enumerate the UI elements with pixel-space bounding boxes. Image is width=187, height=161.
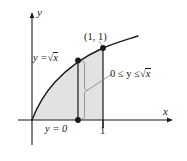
inequality-radical-group: √x bbox=[140, 68, 151, 80]
lower-bound-label: y = 0 bbox=[45, 124, 67, 135]
inequality-annotation: 0 ≤ y ≤√x bbox=[110, 68, 151, 80]
point-label-1-1: (1, 1) bbox=[84, 32, 107, 43]
x-axis-tick-label-1: 1 bbox=[100, 126, 105, 137]
x-axis-label: x bbox=[163, 106, 168, 117]
curve-equation-prefix: y = bbox=[33, 52, 47, 63]
figure-container: y x y =√x (1, 1) y = 0 1 0 ≤ y ≤√x bbox=[0, 0, 187, 161]
inequality-radicand: x bbox=[145, 68, 151, 80]
point-strip-bottom-marker bbox=[75, 117, 81, 123]
point-1-1-marker bbox=[100, 45, 106, 51]
radical-group: √x bbox=[47, 52, 58, 64]
y-axis-label: y bbox=[37, 7, 42, 18]
point-strip-top-marker bbox=[75, 58, 81, 64]
figure-graphic bbox=[0, 0, 187, 161]
radicand: x bbox=[53, 52, 59, 64]
curve-equation-label: y =√x bbox=[33, 52, 58, 64]
inequality-prefix: 0 ≤ y ≤ bbox=[110, 68, 140, 79]
